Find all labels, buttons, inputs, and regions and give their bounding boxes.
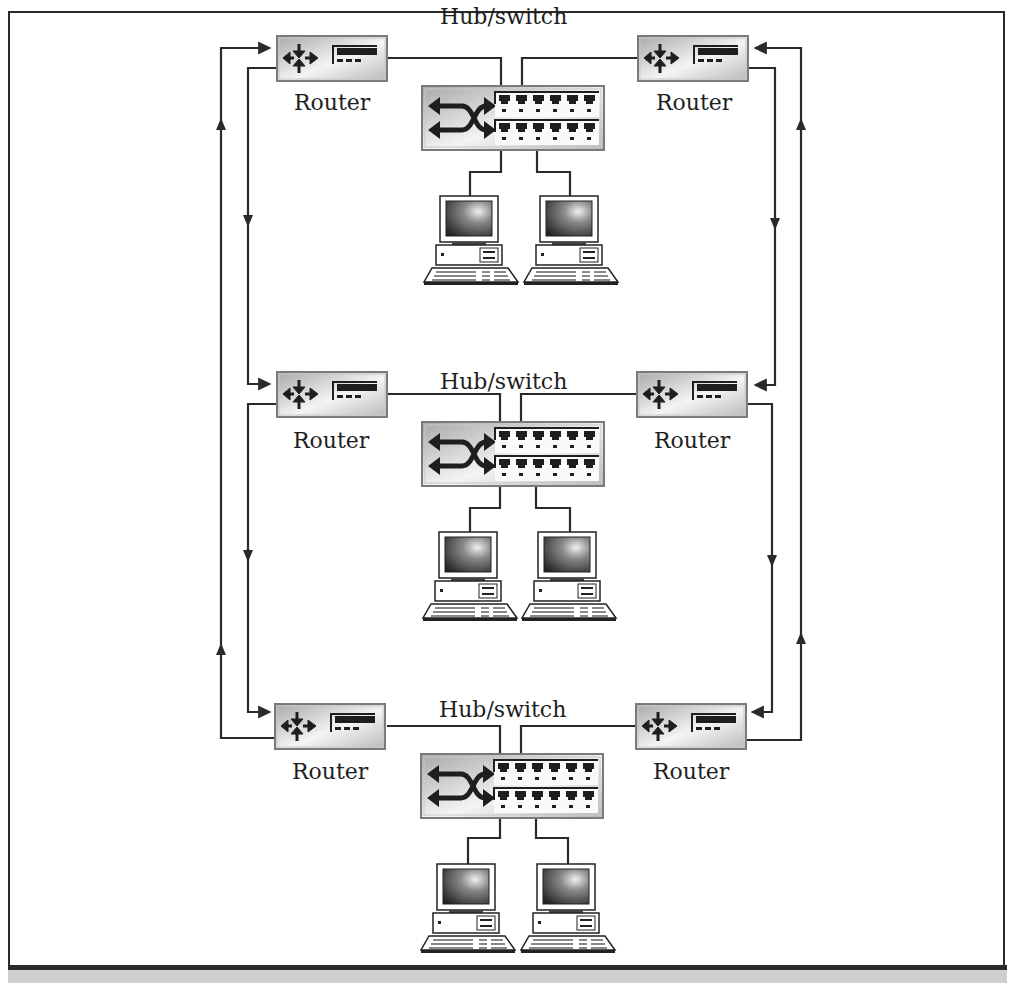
router-label-bottom-right: Router (653, 759, 729, 784)
hub-switch-label-middle: Hub/switch (440, 369, 567, 394)
router-label-middle-right: Router (654, 428, 730, 453)
link-left-inner-bottom (248, 404, 278, 712)
link-right-inner-top (747, 68, 775, 385)
router-middle-right (637, 372, 747, 417)
pc-bottom-1 (421, 864, 515, 953)
link-left-outer (221, 48, 278, 738)
pc-top-1 (424, 196, 518, 285)
link-left-inner-top (248, 68, 278, 384)
pc-middle-1 (423, 532, 517, 621)
router-middle-left (277, 372, 387, 417)
router-bottom-right (636, 704, 746, 749)
pc-top-2 (524, 196, 618, 285)
pc-bottom-2 (521, 864, 615, 953)
router-label-top-left: Router (294, 90, 370, 115)
hub-switch-top (422, 86, 604, 150)
hub-switch-label-top: Hub/switch (440, 4, 567, 29)
hub-switch-middle (422, 422, 604, 486)
network-diagram (0, 0, 1011, 983)
router-label-middle-left: Router (293, 428, 369, 453)
router-top-left (277, 36, 387, 81)
hub-switch-label-bottom: Hub/switch (439, 697, 566, 722)
hub-switch-bottom (421, 754, 603, 818)
router-top-right (638, 36, 748, 81)
router-label-top-right: Router (656, 90, 732, 115)
router-bottom-left (275, 704, 385, 749)
link-right-outer (740, 48, 801, 740)
router-label-bottom-left: Router (292, 759, 368, 784)
pc-middle-2 (522, 532, 616, 621)
